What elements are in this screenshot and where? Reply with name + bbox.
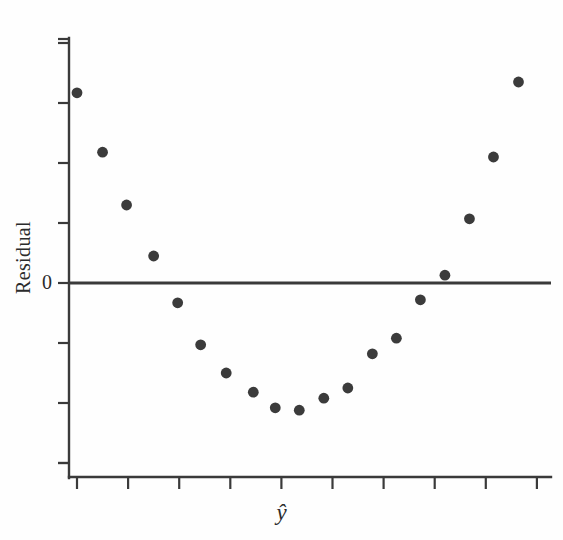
data-point bbox=[270, 402, 281, 413]
data-point bbox=[248, 387, 259, 398]
data-point bbox=[148, 251, 159, 262]
data-point bbox=[488, 152, 499, 163]
data-point bbox=[294, 405, 305, 416]
data-point bbox=[195, 339, 206, 350]
data-point bbox=[72, 87, 83, 98]
x-axis-label: ŷ bbox=[0, 500, 563, 526]
data-point bbox=[440, 270, 451, 281]
data-point bbox=[391, 333, 402, 344]
data-point bbox=[342, 383, 353, 394]
x-axis-ticks bbox=[77, 477, 537, 489]
data-point bbox=[221, 368, 232, 379]
x-axis-group bbox=[69, 477, 551, 489]
residual-plot-figure: Residual 0 ŷ bbox=[0, 0, 563, 540]
zero-tick-label: 0 bbox=[42, 271, 52, 294]
plot-canvas bbox=[0, 0, 563, 540]
data-point bbox=[97, 147, 108, 158]
y-axis-group bbox=[58, 38, 69, 478]
data-point bbox=[318, 393, 329, 404]
data-point bbox=[121, 200, 132, 211]
data-point bbox=[464, 213, 475, 224]
data-point bbox=[415, 294, 426, 305]
data-point bbox=[367, 348, 378, 359]
scatter-points-group bbox=[72, 77, 524, 416]
data-point bbox=[172, 297, 183, 308]
data-point bbox=[513, 77, 524, 88]
y-axis-ticks bbox=[58, 39, 69, 463]
